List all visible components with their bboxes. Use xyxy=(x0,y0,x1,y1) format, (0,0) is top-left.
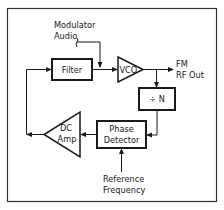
filter-block: Filter xyxy=(52,59,92,80)
vco-block: VCO xyxy=(118,57,143,82)
dc-amp-label-line1: DC xyxy=(60,123,72,133)
vco-label: VCO xyxy=(120,65,138,75)
dc-amp-block: DC Amp xyxy=(44,112,80,157)
rf-out-label-line2: RF Out xyxy=(176,70,205,80)
filter-label: Filter xyxy=(62,65,83,75)
feedback-to-filter-wire xyxy=(27,70,52,135)
divider-to-phase-detector-wire xyxy=(147,110,157,135)
modulator-label-line1: Modulator xyxy=(54,20,96,30)
rf-out-label-line1: FM xyxy=(176,59,188,69)
phase-detector-label-line1: Phase xyxy=(109,124,133,134)
reference-label-line2: Frequency xyxy=(103,185,145,195)
phase-detector-label-line2: Detector xyxy=(104,135,140,145)
dc-amp-label-line2: Amp xyxy=(58,134,77,144)
divide-by-n-block: ÷ N xyxy=(139,88,175,110)
phase-detector-block: Phase Detector xyxy=(97,121,146,148)
reference-label-line1: Reference xyxy=(103,174,144,184)
divider-label: ÷ N xyxy=(149,94,165,104)
outer-frame xyxy=(8,9,217,202)
modulator-label-line2: Audio xyxy=(54,31,77,41)
pll-diagram: Filter Modulator Audio VCO FM RF Out ÷ N… xyxy=(0,0,224,210)
